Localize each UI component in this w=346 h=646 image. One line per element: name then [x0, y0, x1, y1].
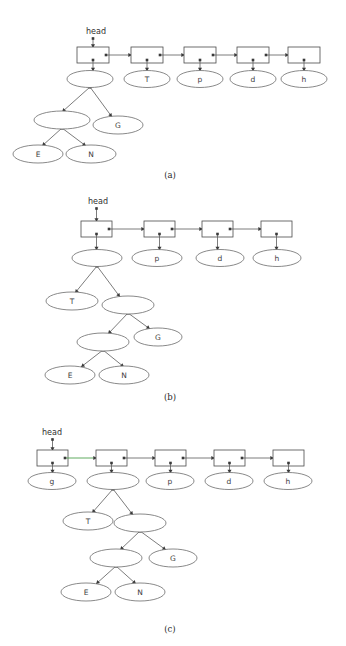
- down-pointer-dot-a-0: [92, 59, 95, 62]
- trie-node-label-b-7: G: [155, 333, 161, 342]
- head-label-c: head: [42, 428, 62, 437]
- trie-node-label-a-3: d: [251, 75, 256, 84]
- tree-edge-c-4: [96, 566, 116, 584]
- down-pointer-dot-b-3: [275, 233, 278, 236]
- trie-node-ellipse-b-5[interactable]: [102, 296, 154, 314]
- trie-node-ellipse-b-6[interactable]: [77, 333, 129, 351]
- down-pointer-dot-a-4: [303, 59, 306, 62]
- head-origin-dot-c: [51, 438, 54, 441]
- next-pointer-dot-c-3: [241, 457, 244, 460]
- trie-node-label-a-8: N: [88, 150, 94, 159]
- trie-node-label-c-5: T: [85, 517, 91, 526]
- next-pointer-dot-c-1: [123, 457, 126, 460]
- trie-node-label-a-2: p: [198, 75, 203, 84]
- trie-node-label-c-0: g: [50, 477, 55, 486]
- tree-edge-a-1: [90, 87, 112, 117]
- down-pointer-dot-c-1: [110, 462, 113, 465]
- tree-edge-a-3: [62, 128, 86, 146]
- head-label-b: head: [88, 197, 108, 206]
- tree-edge-c-2: [120, 531, 140, 550]
- trie-node-label-a-1: T: [144, 75, 150, 84]
- trie-node-label-b-8: E: [68, 371, 73, 380]
- trie-node-label-b-4: T: [69, 297, 75, 306]
- next-pointer-dot-a-1: [159, 54, 162, 57]
- tree-edge-c-3: [140, 531, 166, 550]
- down-pointer-dot-b-0: [95, 233, 98, 236]
- down-pointer-dot-b-1: [158, 233, 161, 236]
- trie-node-label-b-9: N: [121, 371, 127, 380]
- panel-c: headgpdhTGEN(c): [28, 428, 312, 634]
- trie-node-ellipse-a-5[interactable]: [34, 111, 90, 129]
- tree-edge-arrow-b-4: [81, 363, 85, 367]
- next-pointer-dot-c-0: [64, 457, 67, 460]
- trie-node-label-a-4: h: [302, 75, 307, 84]
- linked-list-trie-figure: headTpdhGEN(a)headpdhTGEN(b)headgpdhTGEN…: [0, 0, 346, 646]
- down-pointer-dot-c-4: [287, 462, 290, 465]
- head-origin-dot-a: [92, 37, 95, 40]
- panel-a: headTpdhGEN(a): [13, 27, 327, 180]
- tree-edge-b-1: [97, 266, 120, 297]
- trie-node-label-b-1: p: [155, 254, 160, 263]
- trie-node-label-c-10: N: [137, 588, 143, 597]
- tree-edge-b-0: [75, 266, 97, 293]
- down-pointer-dot-a-2: [199, 59, 202, 62]
- trie-node-ellipse-b-0[interactable]: [72, 250, 122, 267]
- trie-node-label-a-7: E: [36, 150, 41, 159]
- tree-edge-c-1: [113, 489, 133, 515]
- trie-node-label-b-2: d: [218, 254, 223, 263]
- down-pointer-dot-c-0: [51, 462, 54, 465]
- next-pointer-dot-c-2: [182, 457, 185, 460]
- panel-caption-c: (c): [164, 624, 175, 634]
- tree-edge-a-0: [62, 87, 90, 112]
- trie-node-label-c-2: p: [168, 477, 173, 486]
- down-pointer-dot-a-3: [252, 59, 255, 62]
- figure-container: headTpdhGEN(a)headpdhTGEN(b)headgpdhTGEN…: [0, 0, 346, 646]
- head-label-a: head: [86, 27, 106, 36]
- trie-node-ellipse-c-1[interactable]: [87, 473, 139, 490]
- tree-edge-b-5: [103, 350, 124, 367]
- tree-edge-c-0: [92, 489, 113, 513]
- tree-edge-b-3: [128, 313, 150, 329]
- trie-node-label-c-3: d: [227, 477, 232, 486]
- head-origin-dot-b: [95, 207, 98, 210]
- trie-node-label-c-8: G: [170, 554, 176, 563]
- next-pointer-dot-a-3: [265, 54, 268, 57]
- down-pointer-dot-b-2: [216, 233, 219, 236]
- down-pointer-dot-a-1: [146, 59, 149, 62]
- down-pointer-dot-c-3: [228, 462, 231, 465]
- trie-node-label-c-4: h: [286, 477, 291, 486]
- next-pointer-dot-b-0: [108, 228, 111, 231]
- down-pointer-dot-c-2: [169, 462, 172, 465]
- trie-node-label-b-3: h: [275, 254, 280, 263]
- trie-node-label-a-6: G: [115, 121, 121, 130]
- next-pointer-dot-b-2: [229, 228, 232, 231]
- tree-edge-a-2: [42, 128, 62, 146]
- trie-node-label-c-9: E: [84, 588, 89, 597]
- panel-caption-a: (a): [164, 170, 176, 180]
- tree-edge-b-4: [81, 350, 103, 367]
- trie-node-ellipse-c-6[interactable]: [114, 514, 166, 532]
- panel-b: headpdhTGEN(b): [45, 197, 301, 402]
- trie-node-ellipse-c-7[interactable]: [90, 549, 142, 567]
- tree-edge-c-5: [116, 566, 136, 584]
- panel-caption-b: (b): [164, 392, 176, 402]
- next-pointer-dot-a-0: [105, 54, 108, 57]
- trie-node-ellipse-a-0[interactable]: [67, 71, 113, 88]
- next-pointer-dot-a-2: [212, 54, 215, 57]
- next-pointer-dot-b-1: [171, 228, 174, 231]
- tree-edge-b-2: [108, 313, 128, 334]
